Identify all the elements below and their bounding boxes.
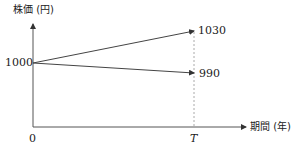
x-axis-label: 期間 (年): [250, 121, 291, 133]
chart-canvas: [0, 0, 299, 157]
series-down-line: [33, 63, 194, 73]
origin-tick-label: 0: [29, 133, 36, 145]
up-value-label: 1030: [198, 25, 226, 37]
start-value-label: 1000: [5, 57, 33, 69]
y-axis-label: 株価 (円): [13, 4, 54, 16]
t-tick-label: T: [190, 133, 197, 145]
series-up-line: [33, 31, 194, 63]
down-value-label: 990: [199, 68, 220, 80]
